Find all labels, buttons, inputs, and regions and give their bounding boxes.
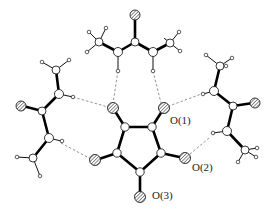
oxygen-atom-o2 [180,153,191,164]
top-molecule [85,10,182,73]
oxygen-atom-left-top [108,103,119,114]
label-o1: O(1) [170,114,191,127]
molecular-diagram: O(1) O(2) O(3) [0,0,272,214]
oxygen-atom-left [90,155,101,166]
label-o2: O(2) [192,161,213,174]
oxygen-atom-o3 [135,192,146,203]
label-o3: O(3) [152,189,173,202]
oxygen-atom-o1 [159,103,170,114]
left-molecule [15,58,75,178]
right-molecule [201,53,260,164]
